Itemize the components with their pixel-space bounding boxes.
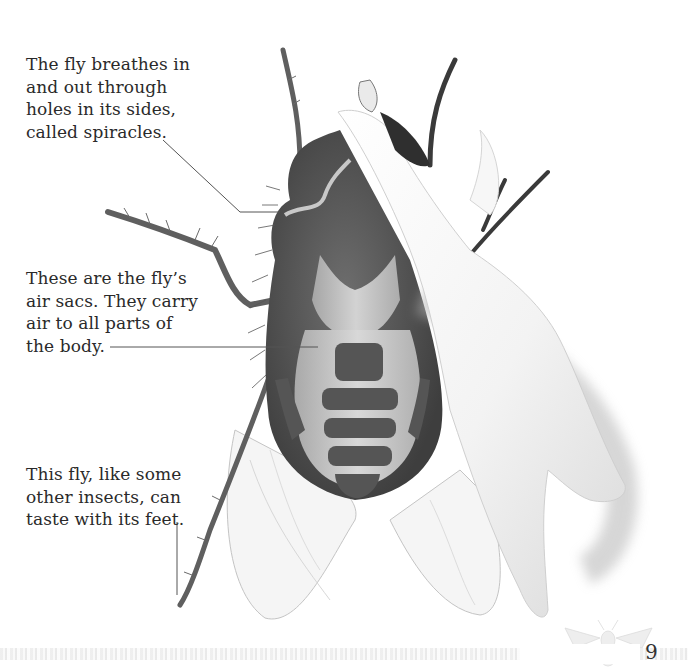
caption-line: air to all parts of: [26, 312, 198, 335]
caption-line: and out through: [26, 76, 190, 99]
caption-line: The fly breathes in: [26, 53, 190, 76]
book-page: The fly breathes in and out through hole…: [0, 0, 688, 668]
caption-air-sacs: These are the fly’s air sacs. They carry…: [26, 267, 198, 357]
caption-line: called spiracles.: [26, 121, 190, 144]
caption-line: taste with its feet.: [26, 508, 184, 531]
caption-line: holes in its sides,: [26, 98, 190, 121]
caption-line: other insects, can: [26, 486, 184, 509]
caption-line: the body.: [26, 335, 198, 358]
caption-spiracles: The fly breathes in and out through hole…: [26, 53, 190, 143]
page-number: 9: [645, 640, 658, 664]
caption-feet: This fly, like some other insects, can t…: [26, 463, 184, 531]
caption-line: These are the fly’s: [26, 267, 198, 290]
caption-line: air sacs. They carry: [26, 290, 198, 313]
caption-line: This fly, like some: [26, 463, 184, 486]
footer-gap: [520, 644, 640, 664]
